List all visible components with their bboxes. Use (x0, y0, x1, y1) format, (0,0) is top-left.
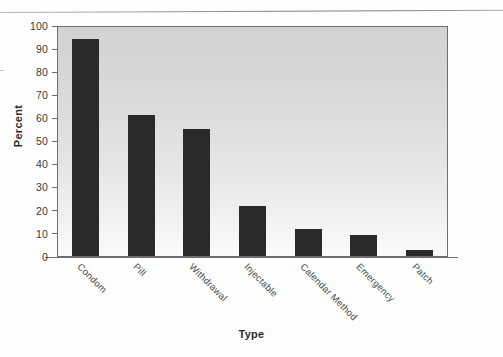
y-axis-tick-label: 10 (36, 229, 52, 240)
x-axis-line (45, 257, 458, 258)
x-axis-tick-label: Pill (131, 261, 148, 278)
y-axis-tick-label: 100 (30, 21, 52, 32)
y-axis-tick-label: 50 (36, 136, 52, 147)
bar (72, 39, 99, 256)
y-axis-tick-label: 80 (36, 67, 52, 78)
x-axis-tick: Injectable (239, 259, 266, 319)
bar-series (58, 27, 447, 256)
plot-area (57, 26, 448, 257)
y-axis-tick-label: 20 (36, 206, 52, 217)
y-axis-line (57, 26, 58, 258)
x-axis-tick: Pill (127, 259, 154, 319)
y-axis-tick-mark (52, 141, 57, 142)
y-axis-tick-mark (52, 72, 57, 73)
y-axis-tick-mark (52, 187, 57, 188)
y-axis-tick-mark (52, 49, 57, 50)
y-axis-tick-label: 70 (36, 90, 52, 101)
y-axis-tick-label: 60 (36, 113, 52, 124)
x-axis-tick: Calendar Method (295, 259, 322, 319)
bar (350, 235, 377, 256)
bar-chart: 0102030405060708090100 Percent CondomPil… (0, 0, 503, 357)
x-axis-tick: Patch (406, 259, 433, 319)
x-axis-title: Type (0, 328, 503, 340)
y-axis-tick-mark (52, 26, 57, 27)
x-axis-tick-label: Withdrawal (187, 261, 229, 303)
y-axis-title: Percent (12, 96, 24, 156)
y-axis-tick-label: 0 (42, 252, 52, 263)
y-axis-tick-mark (52, 257, 57, 258)
y-axis-tick-mark (52, 210, 57, 211)
x-axis-tick-label: Patch (410, 261, 436, 287)
x-axis-tick: Condom (71, 259, 98, 319)
y-axis-tick-label: 30 (36, 182, 52, 193)
y-axis-tick-mark (52, 95, 57, 96)
bar (406, 250, 433, 256)
y-axis-tick-label: 40 (36, 159, 52, 170)
bar (128, 115, 155, 256)
bar (239, 206, 266, 256)
y-axis-tick-mark (52, 233, 57, 234)
x-axis-tick-label: Emergency (354, 261, 397, 304)
x-axis-tick: Withdrawal (183, 259, 210, 319)
bar (183, 129, 210, 256)
page-background: 0102030405060708090100 Percent CondomPil… (0, 0, 503, 357)
y-axis-tick-mark (52, 164, 57, 165)
x-axis-tick-label: Condom (75, 261, 109, 295)
x-axis-tick-label: Injectable (243, 261, 281, 299)
x-axis-tick: Emergency (351, 259, 378, 319)
bar (295, 229, 322, 256)
y-axis-tick-label: 90 (36, 44, 52, 55)
x-axis-tick-labels: CondomPillWithdrawalInjectableCalendar M… (57, 259, 448, 319)
y-axis-tick-mark (52, 118, 57, 119)
